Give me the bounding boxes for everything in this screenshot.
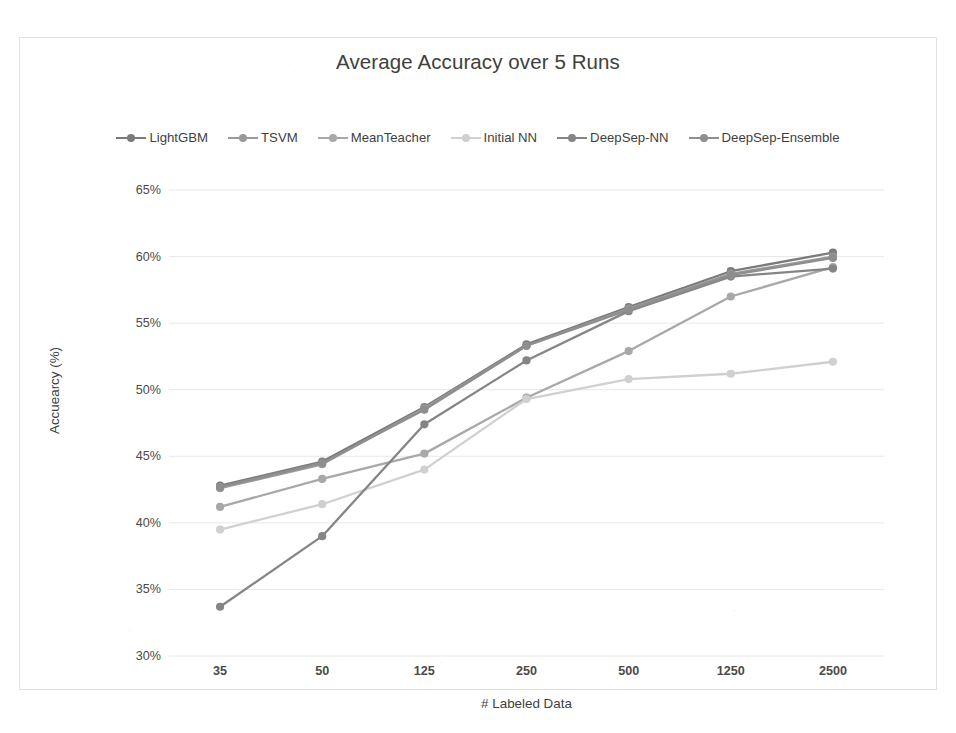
series-deepsep-nn	[216, 264, 837, 610]
chart-legend: LightGBMTSVMMeanTeacherInitial NNDeepSep…	[20, 131, 936, 144]
legend-label: LightGBM	[149, 131, 208, 144]
y-axis-tick: 30%	[101, 649, 161, 663]
data-point	[216, 525, 224, 533]
x-axis-tick-labels: 355012525050012502500	[169, 664, 884, 686]
data-point	[420, 466, 428, 474]
data-point	[522, 342, 530, 350]
data-point	[727, 370, 735, 378]
y-axis-tick-labels: 65%60%55%50%45%40%35%30%	[95, 190, 161, 656]
x-axis-tick: 1250	[717, 664, 745, 678]
data-point	[829, 254, 837, 262]
legend-label: TSVM	[261, 131, 298, 144]
legend-swatch-icon	[318, 132, 348, 143]
legend-item-deepsep-nn[interactable]: DeepSep-NN	[557, 131, 668, 144]
data-point	[522, 356, 530, 364]
data-point	[216, 503, 224, 511]
legend-swatch-icon	[116, 132, 146, 143]
data-point	[216, 483, 224, 491]
legend-label: Initial NN	[484, 131, 538, 144]
series-canvas	[169, 190, 884, 656]
data-point	[829, 358, 837, 366]
data-point	[625, 375, 633, 383]
legend-item-initial-nn[interactable]: Initial NN	[451, 131, 538, 144]
legend-label: MeanTeacher	[351, 131, 431, 144]
data-point	[318, 459, 326, 467]
legend-swatch-icon	[228, 132, 258, 143]
plot-area	[169, 190, 884, 656]
legend-swatch-icon	[557, 132, 587, 143]
legend-swatch-icon	[451, 132, 481, 143]
legend-label: DeepSep-NN	[590, 131, 668, 144]
chart-container: Average Accuracy over 5 Runs LightGBMTSV…	[19, 37, 937, 690]
data-point	[318, 500, 326, 508]
x-axis-tick: 50	[315, 664, 329, 678]
series-meanteacher	[216, 263, 837, 511]
y-axis-tick: 50%	[101, 383, 161, 397]
data-point	[625, 347, 633, 355]
x-axis-tick: 2500	[819, 664, 847, 678]
x-axis-tick: 125	[414, 664, 435, 678]
x-axis-tick: 250	[516, 664, 537, 678]
series-initial-nn	[216, 358, 837, 534]
data-point	[318, 532, 326, 540]
data-point	[829, 264, 837, 272]
y-axis-tick: 60%	[101, 250, 161, 264]
y-axis-tick: 45%	[101, 449, 161, 463]
data-point	[522, 395, 530, 403]
y-axis-tick: 40%	[101, 516, 161, 530]
y-axis-tick: 35%	[101, 582, 161, 596]
x-axis-tick: 500	[618, 664, 639, 678]
y-axis-tick: 65%	[101, 183, 161, 197]
data-point	[420, 450, 428, 458]
data-point	[727, 271, 735, 279]
x-axis-tick: 35	[213, 664, 227, 678]
series-lightgbm	[216, 248, 837, 489]
data-point	[420, 420, 428, 428]
data-point	[727, 292, 735, 300]
data-point	[420, 406, 428, 414]
y-axis-title: Accuearcy (%)	[47, 321, 62, 461]
legend-item-meanteacher[interactable]: MeanTeacher	[318, 131, 431, 144]
y-axis-tick: 55%	[101, 316, 161, 330]
gridlines	[169, 190, 884, 656]
legend-item-tsvm[interactable]: TSVM	[228, 131, 298, 144]
legend-item-deepsep-ensemble[interactable]: DeepSep-Ensemble	[689, 131, 840, 144]
data-point	[625, 306, 633, 314]
legend-item-lightgbm[interactable]: LightGBM	[116, 131, 208, 144]
legend-label: DeepSep-Ensemble	[722, 131, 840, 144]
chart-title: Average Accuracy over 5 Runs	[20, 50, 936, 74]
x-axis-title: # Labeled Data	[169, 696, 884, 711]
legend-swatch-icon	[689, 132, 719, 143]
data-point	[318, 475, 326, 483]
data-point	[216, 603, 224, 611]
